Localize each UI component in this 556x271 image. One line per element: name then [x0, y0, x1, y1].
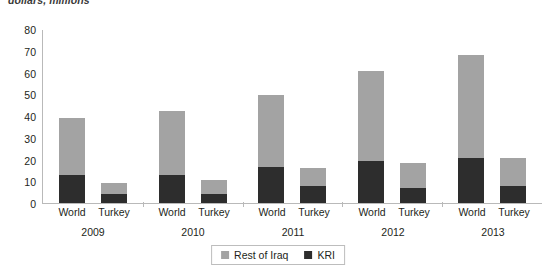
category-sublabels: WorldTurkey: [443, 206, 543, 218]
bar-segment-rest-of-iraq: [500, 158, 526, 185]
y-axis-tick-label: 30: [24, 133, 36, 145]
legend-swatch-icon: [221, 251, 229, 259]
bar-segment-kri: [400, 188, 426, 203]
y-axis-tick-label: 0: [30, 198, 36, 210]
legend-label: Rest of Iraq: [234, 249, 288, 261]
bar-segment-kri: [258, 167, 284, 203]
bar-segment-kri: [159, 175, 185, 203]
bar-segment-rest-of-iraq: [300, 168, 326, 185]
bar-2009-world[interactable]: [59, 118, 85, 203]
bar-group-2012: [342, 30, 442, 203]
chart-legend: Rest of IraqKRI: [211, 245, 345, 265]
bar-2009-turkey[interactable]: [101, 183, 127, 203]
y-axis-tick-label: 20: [24, 155, 36, 167]
legend-entry[interactable]: KRI: [304, 249, 335, 261]
x-axis-label-world: World: [54, 206, 90, 218]
bar-segment-kri: [500, 186, 526, 203]
y-axis-tick-label: 10: [24, 176, 36, 188]
legend-entry[interactable]: Rest of Iraq: [221, 249, 288, 261]
legend-label: KRI: [317, 249, 335, 261]
category-group-2011: WorldTurkey2011: [243, 206, 343, 250]
bar-segment-rest-of-iraq: [59, 118, 85, 175]
x-axis-label-turkey: Turkey: [396, 206, 432, 218]
bar-group-2011: [243, 30, 343, 203]
bar-2012-world[interactable]: [358, 71, 384, 203]
bar-2010-turkey[interactable]: [201, 180, 227, 203]
bar-segment-kri: [59, 175, 85, 203]
bar-segment-kri: [300, 186, 326, 203]
bar-segment-rest-of-iraq: [358, 71, 384, 160]
bar-segment-rest-of-iraq: [101, 183, 127, 194]
bar-segment-rest-of-iraq: [400, 163, 426, 188]
x-axis-label-world: World: [354, 206, 390, 218]
category-group-2013: WorldTurkey2013: [443, 206, 543, 250]
x-axis-category-labels: WorldTurkey2009WorldTurkey2010WorldTurke…: [43, 206, 543, 250]
bar-group-2013: [442, 30, 542, 203]
category-sublabels: WorldTurkey: [343, 206, 443, 218]
category-group-2010: WorldTurkey2010: [143, 206, 243, 250]
x-axis-label-world: World: [254, 206, 290, 218]
x-axis-year-label: 2010: [181, 226, 204, 238]
y-axis-tick-label: 70: [24, 46, 36, 58]
y-axis-tick-label: 60: [24, 68, 36, 80]
bar-2012-turkey[interactable]: [400, 163, 426, 203]
plot-area: 80706050403020100: [42, 30, 542, 204]
y-axis-tick-label: 40: [24, 111, 36, 123]
bar-segment-rest-of-iraq: [201, 180, 227, 194]
x-axis-label-turkey: Turkey: [96, 206, 132, 218]
x-axis-year-label: 2013: [481, 226, 504, 238]
category-sublabels: WorldTurkey: [43, 206, 143, 218]
y-axis-tick-label: 80: [24, 24, 36, 36]
legend-swatch-icon: [304, 251, 312, 259]
bar-segment-kri: [358, 161, 384, 203]
x-axis-year-label: 2009: [81, 226, 104, 238]
x-axis-label-turkey: Turkey: [496, 206, 532, 218]
x-axis-label-turkey: Turkey: [296, 206, 332, 218]
bar-group-2009: [43, 30, 143, 203]
bar-2011-world[interactable]: [258, 95, 284, 203]
x-axis-line: [42, 203, 542, 204]
category-group-2012: WorldTurkey2012: [343, 206, 443, 250]
bar-segment-rest-of-iraq: [458, 55, 484, 158]
category-sublabels: WorldTurkey: [143, 206, 243, 218]
bar-segment-rest-of-iraq: [159, 111, 185, 175]
units-caption: dollars, millions: [8, 0, 90, 6]
bars-layer: [43, 30, 542, 203]
bar-2013-world[interactable]: [458, 55, 484, 203]
x-axis-year-label: 2012: [381, 226, 404, 238]
y-axis-tick-label: 50: [24, 89, 36, 101]
bar-segment-kri: [101, 194, 127, 203]
bar-2013-turkey[interactable]: [500, 158, 526, 203]
x-axis-label-world: World: [454, 206, 490, 218]
category-group-2009: WorldTurkey2009: [43, 206, 143, 250]
x-axis-label-world: World: [154, 206, 190, 218]
x-axis-label-turkey: Turkey: [196, 206, 232, 218]
bar-2011-turkey[interactable]: [300, 168, 326, 203]
chart-figure: dollars, millions 80706050403020100 Worl…: [0, 0, 556, 271]
bar-segment-kri: [458, 158, 484, 203]
bar-segment-rest-of-iraq: [258, 95, 284, 167]
bar-group-2010: [143, 30, 243, 203]
x-axis-year-label: 2011: [282, 226, 305, 238]
bar-2010-world[interactable]: [159, 111, 185, 203]
bar-segment-kri: [201, 194, 227, 203]
category-sublabels: WorldTurkey: [243, 206, 343, 218]
